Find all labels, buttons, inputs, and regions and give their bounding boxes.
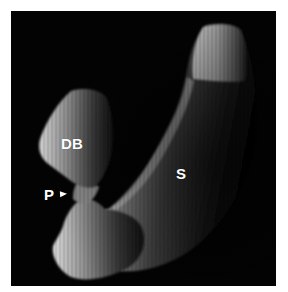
surface-render xyxy=(11,11,276,286)
label-p: P xyxy=(44,187,54,202)
arrowhead-icon xyxy=(60,191,67,197)
label-s: S xyxy=(176,166,186,181)
micrograph-figure: DB S P xyxy=(11,11,276,286)
label-db: DB xyxy=(61,136,83,151)
